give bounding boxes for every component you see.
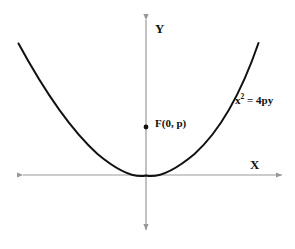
focus-label: F(0, p) bbox=[155, 118, 186, 129]
curve-equation-label: x2 = 4py bbox=[235, 95, 273, 106]
parabola-figure: Y X F(0, p) x2 = 4py bbox=[0, 0, 295, 249]
axis-label-y: Y bbox=[155, 22, 164, 35]
axis-label-x: X bbox=[250, 158, 259, 171]
parabola-curve bbox=[19, 43, 259, 176]
focus-point-marker bbox=[144, 125, 149, 130]
parabola-plot bbox=[0, 0, 295, 249]
equation-remainder: = 4py bbox=[244, 94, 273, 106]
